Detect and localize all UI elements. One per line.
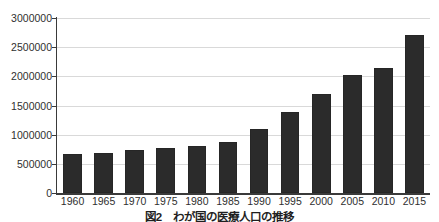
y-tick-label: 0 xyxy=(0,188,52,199)
x-tick-label: 1985 xyxy=(212,196,243,207)
x-tick-label: 2005 xyxy=(337,196,368,207)
figure-caption: 図2 わが国の医療人口の推移 xyxy=(0,211,439,222)
bar xyxy=(250,129,269,193)
x-tick-label: 2015 xyxy=(399,196,430,207)
bar xyxy=(156,148,175,194)
bar xyxy=(343,75,362,193)
y-tick-label: 2500000 xyxy=(0,42,52,53)
x-tick-label: 1990 xyxy=(244,196,275,207)
x-tick-label: 1980 xyxy=(181,196,212,207)
x-tick-label: 1995 xyxy=(275,196,306,207)
y-tick-label: 500000 xyxy=(0,159,52,170)
x-tick-label: 1965 xyxy=(88,196,119,207)
bar xyxy=(94,153,113,193)
bar xyxy=(125,150,144,193)
x-tick-label: 1975 xyxy=(150,196,181,207)
bar-series xyxy=(57,18,430,193)
bar xyxy=(219,142,238,193)
bar xyxy=(281,112,300,193)
x-tick-label: 1970 xyxy=(119,196,150,207)
bar xyxy=(63,154,82,193)
x-tick-label: 2010 xyxy=(368,196,399,207)
bar xyxy=(312,94,331,193)
y-tick-label: 3000000 xyxy=(0,13,52,24)
x-tick-label: 2000 xyxy=(306,196,337,207)
bar-chart-figure: 0500000100000015000002000000250000030000… xyxy=(0,0,439,222)
y-tick-label: 2000000 xyxy=(0,71,52,82)
y-tick-label: 1000000 xyxy=(0,130,52,141)
bar xyxy=(374,68,393,193)
bar xyxy=(188,146,207,193)
y-tick-label: 1500000 xyxy=(0,101,52,112)
bar xyxy=(405,35,424,193)
x-tick-label: 1960 xyxy=(57,196,88,207)
